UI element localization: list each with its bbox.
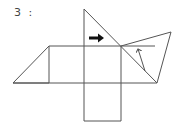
right-flap (121, 32, 171, 83)
net-diagram (0, 0, 180, 129)
left-triangle (13, 46, 49, 83)
bold-right-arrow (89, 34, 104, 43)
